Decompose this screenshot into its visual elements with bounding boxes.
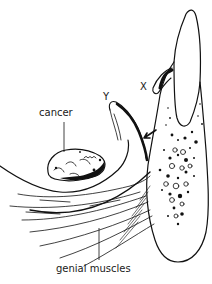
mucosal-flap-y-thick	[117, 104, 147, 160]
bone-marrow-texture	[159, 103, 203, 225]
label-cancer: cancer	[39, 108, 73, 118]
diagram-artwork	[0, 0, 212, 284]
label-y: Y	[103, 92, 109, 102]
muscle-hatching	[116, 186, 150, 248]
bone-marrow-rings	[164, 148, 192, 218]
label-x: X	[140, 82, 147, 92]
mucosal-flap-y-inner	[110, 110, 121, 140]
mandible-diagram: X Y cancer genial muscles	[0, 0, 212, 284]
arrow-icon	[144, 130, 156, 138]
label-genial-muscles: genial muscles	[56, 264, 131, 274]
genial-muscle-fibers	[10, 176, 154, 266]
tooth-outline	[174, 10, 200, 126]
cancer-mass	[48, 149, 105, 181]
